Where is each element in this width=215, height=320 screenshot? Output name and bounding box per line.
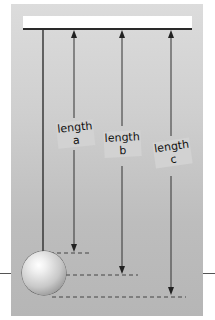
label-length-b: length b <box>103 130 141 158</box>
label-b-line1: length <box>104 130 140 145</box>
label-b-line2: b <box>105 143 141 158</box>
label-length-a: length a <box>56 119 96 149</box>
label-length-c: length c <box>152 138 192 169</box>
pendulum-ball <box>22 251 66 295</box>
